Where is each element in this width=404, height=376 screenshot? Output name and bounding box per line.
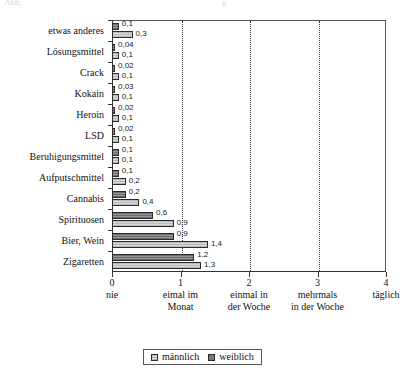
- bar-row: 0,10,1: [112, 146, 386, 167]
- male-swatch: [151, 354, 158, 361]
- bar-value-label: 0,02: [118, 104, 134, 112]
- bar-value-label: 0,9: [177, 230, 188, 238]
- bar-row: 0,91,4: [112, 230, 386, 251]
- category-label: Crack: [0, 67, 104, 78]
- bar-chart: Abb. g etwas anderesLösungsmittelCrackKo…: [0, 0, 404, 376]
- bar-female: [112, 157, 119, 164]
- bar-value-label: 1,4: [211, 240, 222, 248]
- bar-value-label: 0,6: [156, 209, 167, 217]
- bar-male: [112, 128, 115, 135]
- bar-female: [112, 136, 119, 143]
- bar-value-label: 0,1: [122, 72, 133, 80]
- bar-female: [112, 73, 119, 80]
- bar-female: [112, 115, 119, 122]
- bar-value-label: 1,2: [197, 251, 208, 259]
- bar-row: 0,10,2: [112, 167, 386, 188]
- bar-value-label: 0,2: [129, 177, 140, 185]
- bar-female: [112, 241, 208, 248]
- bar-row: 0,20,4: [112, 188, 386, 209]
- bar-value-label: 0,1: [122, 114, 133, 122]
- bar-female: [112, 178, 126, 185]
- bar-value-label: 0,02: [118, 125, 134, 133]
- category-label: Aufputschmittel: [0, 172, 104, 183]
- category-label: Spirituosen: [0, 214, 104, 225]
- legend-label: männlich: [162, 352, 199, 362]
- bar-value-label: 0,02: [118, 62, 134, 70]
- header-remnant-right: g: [222, 0, 227, 7]
- bar-male: [112, 23, 119, 30]
- bar-value-label: 0,03: [118, 83, 134, 91]
- bar-value-label: 0,3: [136, 30, 147, 38]
- bar-row: 1,21,3: [112, 251, 386, 272]
- category-label: LSD: [0, 130, 104, 141]
- category-label: Zigaretten: [0, 256, 104, 267]
- bar-value-label: 0,04: [118, 41, 134, 49]
- category-label: Beruhigungsmittel: [0, 151, 104, 162]
- bar-male: [112, 170, 119, 177]
- chart-legend: männlichweiblich: [143, 349, 262, 365]
- bar-row: 0,60,9: [112, 209, 386, 230]
- bar-row: 0,040,1: [112, 41, 386, 62]
- x-tick-text-line2: in der Woche: [276, 301, 360, 313]
- bar-value-label: 0,1: [122, 135, 133, 143]
- x-tick-text-line1: täglich: [344, 289, 404, 301]
- x-tick-label: 4täglich: [344, 277, 404, 301]
- bar-female: [112, 220, 174, 227]
- bar-male: [112, 191, 126, 198]
- bar-row: 0,020,1: [112, 125, 386, 146]
- legend-label: weiblich: [219, 352, 253, 362]
- bar-value-label: 0,1: [122, 20, 133, 28]
- bar-row: 0,020,1: [112, 104, 386, 125]
- bar-value-label: 0,1: [122, 167, 133, 175]
- category-label: etwas anderes: [0, 25, 104, 36]
- header-remnant: Abb. g: [0, 0, 404, 10]
- bar-value-label: 0,1: [122, 51, 133, 59]
- bar-row: 0,030,1: [112, 83, 386, 104]
- bar-row: 0,10,3: [112, 20, 386, 41]
- bar-female: [112, 52, 119, 59]
- category-axis: etwas anderesLösungsmittelCrackKokainHer…: [0, 20, 108, 272]
- female-swatch: [208, 354, 215, 361]
- legend-entry[interactable]: männlich: [151, 352, 199, 362]
- bar-row: 0,020,1: [112, 62, 386, 83]
- legend-entry[interactable]: weiblich: [208, 352, 253, 362]
- category-label: Lösungsmittel: [0, 46, 104, 57]
- bar-male: [112, 212, 153, 219]
- bar-male: [112, 254, 194, 261]
- bar-female: [112, 199, 139, 206]
- category-label: Kokain: [0, 88, 104, 99]
- bar-value-label: 0,2: [129, 188, 140, 196]
- bar-male: [112, 65, 115, 72]
- header-remnant-left: Abb.: [4, 0, 22, 7]
- bar-male: [112, 107, 115, 114]
- x-axis-labels: 0nie1eimal imMonat2einmal inder Woche3me…: [0, 277, 404, 327]
- bar-value-label: 1,3: [204, 261, 215, 269]
- bar-rows: 0,10,30,040,10,020,10,030,10,020,10,020,…: [112, 20, 386, 272]
- bar-value-label: 0,4: [142, 198, 153, 206]
- category-label: Bier, Wein: [0, 235, 104, 246]
- bar-male: [112, 233, 174, 240]
- x-tick-number: 4: [344, 277, 404, 289]
- category-label: Heroin: [0, 109, 104, 120]
- bar-male: [112, 86, 115, 93]
- bar-male: [112, 149, 119, 156]
- bar-value-label: 0,1: [122, 146, 133, 154]
- bar-value-label: 0,1: [122, 93, 133, 101]
- bar-female: [112, 262, 201, 269]
- bar-male: [112, 44, 115, 51]
- bar-value-label: 0,1: [122, 156, 133, 164]
- category-label: Cannabis: [0, 193, 104, 204]
- bar-female: [112, 31, 133, 38]
- bar-value-label: 0,9: [177, 219, 188, 227]
- bar-female: [112, 94, 119, 101]
